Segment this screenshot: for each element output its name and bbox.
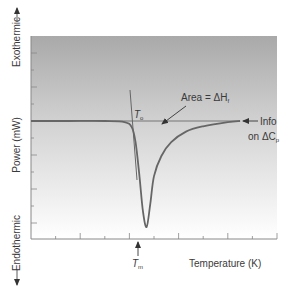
info-delta-cp-label: on ΔCp (248, 131, 280, 143)
y-axis-label: Power (mW) (11, 117, 22, 173)
area-label: Area = ΔHf (181, 92, 229, 104)
endothermic-label: Endothermic (11, 215, 22, 271)
exothermic-label: Exothermic (11, 17, 22, 67)
dsc-figure: Exothermic Power (mW) Endothermic To Are… (0, 0, 286, 289)
melting-temperature-label: Tm (132, 258, 143, 270)
x-axis-label: Temperature (K) (189, 258, 261, 269)
plot-background (31, 36, 277, 239)
info-label: Info (260, 116, 277, 127)
